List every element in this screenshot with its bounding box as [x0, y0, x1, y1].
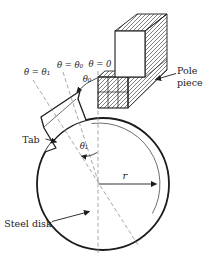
steel-disk-leader-arrow: [52, 212, 90, 222]
label-theta1-angle: θ₁: [80, 141, 89, 151]
label-radius: r: [123, 170, 129, 181]
label-theta-eq-zero: θ = 0: [88, 59, 112, 69]
label-theta0-angle: θ₀: [83, 74, 92, 84]
label-theta-eq-theta0: θ = θ₀: [57, 60, 84, 70]
figure-canvas: θ = θ₁ θ = θ₀ θ = 0 θ₀ θ₁ r Tab Steel di…: [0, 0, 210, 260]
label-steel-disk: Steel disk: [4, 218, 52, 229]
label-tab: Tab: [22, 134, 39, 145]
pole-piece-front-face: [115, 31, 145, 77]
label-theta-eq-theta1: θ = θ₁: [24, 67, 50, 77]
pole-piece-base-front-face: [98, 77, 128, 108]
diagram-svg: θ = θ₁ θ = θ₀ θ = 0 θ₀ θ₁ r Tab Steel di…: [0, 0, 210, 260]
label-pole-piece: Pole piece: [177, 65, 203, 88]
